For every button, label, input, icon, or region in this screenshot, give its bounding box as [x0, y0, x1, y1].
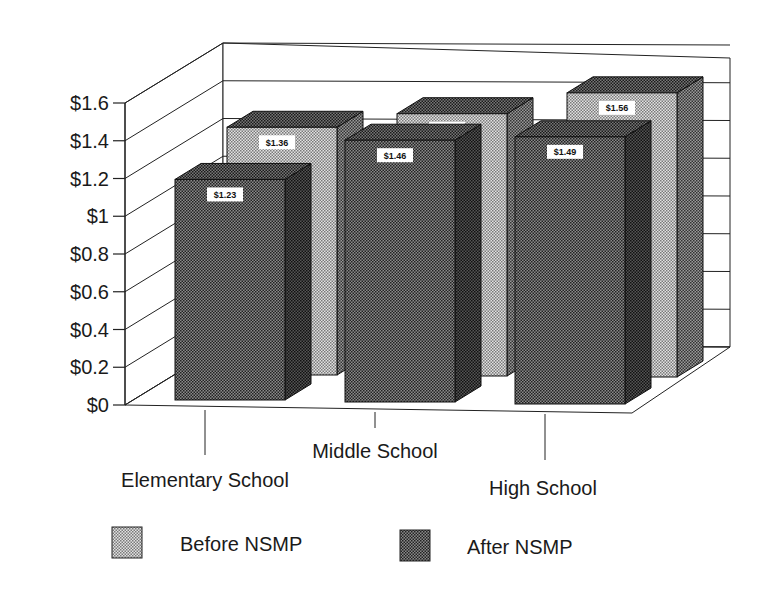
bar-after-nsmp: $1.49	[515, 121, 651, 404]
x-category-label: High School	[489, 477, 597, 499]
y-tick-label: $1.6	[70, 92, 109, 114]
y-tick-label: $0.4	[70, 319, 109, 341]
data-label: $1.23	[214, 190, 237, 200]
y-axis: $0$0.2$0.4$0.6$0.8$1$1.2$1.4$1.6	[70, 92, 125, 416]
y-tick-label: $0.6	[70, 281, 109, 303]
x-category-label: Middle School	[312, 440, 438, 462]
bars: $1.36$1.44$1.56$1.23$1.46$1.49	[175, 77, 703, 404]
data-label: $1.56	[606, 103, 629, 113]
bar-chart: $0$0.2$0.4$0.6$0.8$1$1.2$1.4$1.6 $1.36$1…	[0, 0, 768, 601]
y-tick-label: $1	[87, 205, 109, 227]
data-label: $1.36	[266, 138, 289, 148]
data-label: $1.46	[384, 151, 407, 161]
y-tick-label: $0.8	[70, 243, 109, 265]
legend-item-after-nsmp: After NSMP	[400, 530, 573, 561]
legend: Before NSMPAfter NSMP	[112, 527, 573, 561]
y-tick-label: $1.4	[70, 130, 109, 152]
legend-item-before-nsmp: Before NSMP	[112, 527, 302, 558]
y-tick-label: $0	[87, 394, 109, 416]
legend-swatch	[112, 527, 142, 558]
bar-after-nsmp: $1.46	[345, 124, 481, 402]
x-axis: Elementary SchoolMiddle SchoolHigh Schoo…	[121, 410, 597, 499]
bar-after-nsmp: $1.23	[175, 163, 311, 400]
y-tick-label: $0.2	[70, 356, 109, 378]
y-tick-label: $1.2	[70, 168, 109, 190]
legend-swatch	[400, 530, 430, 561]
x-category-label: Elementary School	[121, 469, 289, 491]
legend-label: Before NSMP	[180, 533, 302, 555]
legend-label: After NSMP	[467, 536, 573, 558]
data-label: $1.49	[554, 147, 577, 157]
